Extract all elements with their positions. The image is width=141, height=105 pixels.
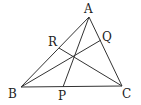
cevian-bq	[21, 40, 101, 87]
side-ab	[21, 17, 89, 87]
side-bc	[21, 86, 122, 87]
label-p: P	[58, 89, 66, 103]
cevian-ap	[63, 17, 89, 87]
label-b: B	[8, 87, 17, 101]
label-q: Q	[102, 30, 112, 44]
label-c: C	[122, 87, 131, 101]
label-a: A	[83, 2, 93, 16]
label-r: R	[48, 35, 58, 49]
triangle-diagram: A B C P Q R	[0, 0, 141, 105]
